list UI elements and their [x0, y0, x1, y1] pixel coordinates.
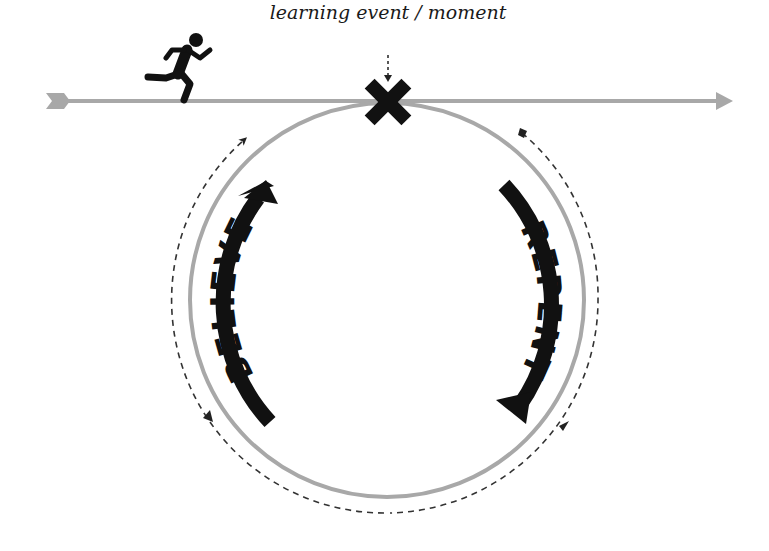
believe-label: BELIEVE [203, 210, 261, 389]
arrowhead-down-icon [496, 392, 531, 424]
repent-label: REPENT [513, 215, 570, 386]
dashed-arrowhead-icon [559, 421, 569, 431]
learning-event-caption: learning event / moment [270, 1, 507, 23]
timeline-tail-icon [46, 93, 70, 109]
believe-repent-cycle-diagram: BELIEVE REPENT learning event / moment [0, 0, 769, 551]
running-person-icon [148, 33, 210, 100]
cycle-circle [190, 103, 584, 497]
timeline-arrowhead-icon [716, 92, 733, 110]
left-dashed-arc [172, 140, 384, 513]
dashed-arrowhead-icon [203, 410, 213, 422]
pointer-arrowhead-icon [384, 75, 392, 82]
